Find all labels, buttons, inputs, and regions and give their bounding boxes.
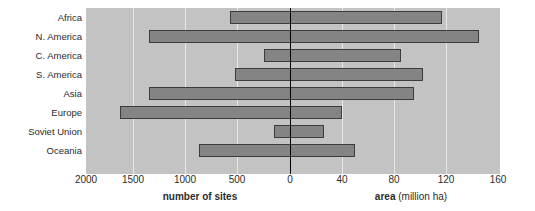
left-axis-title-text: number of sites [163, 191, 237, 202]
bar-row-europe [86, 103, 500, 122]
category-label-africa: Africa [0, 8, 82, 27]
right-axis-title-text: area [375, 191, 396, 202]
category-label-s-america: S. America [0, 65, 82, 84]
bar-row-asia [86, 84, 500, 103]
bar-s-america [235, 68, 423, 81]
category-label-asia: Asia [0, 84, 82, 103]
category-label-c-america: C. America [0, 46, 82, 65]
bar-row-s-america [86, 65, 500, 84]
bar-row-c-america [86, 46, 500, 65]
bar-row-oceania [86, 141, 500, 160]
left-axis-title: number of sites [163, 191, 237, 202]
category-label-oceania: Oceania [0, 141, 82, 160]
zero-divider-line [290, 8, 291, 174]
tick-label-160: 160 [490, 174, 507, 185]
tick-label-40: 40 [336, 174, 347, 185]
tick-label-1500: 1500 [122, 174, 144, 185]
chart-container: Africa N. America C. America S. America … [0, 0, 535, 211]
bar-europe [120, 106, 342, 119]
bar-oceania [199, 144, 355, 157]
tick-label-80: 80 [388, 174, 399, 185]
bar-n-america [149, 30, 479, 43]
bar-asia [149, 87, 414, 100]
bar-c-america [264, 49, 401, 62]
tick-label-0: 0 [287, 174, 293, 185]
category-label-n-america: N. America [0, 27, 82, 46]
tick-label-1000: 1000 [174, 174, 196, 185]
right-axis-title: area (million ha) [375, 191, 447, 202]
bar-row-africa [86, 8, 500, 27]
bar-africa [230, 11, 442, 24]
right-axis-unit-text: (million ha) [398, 191, 447, 202]
bar-soviet-union [274, 125, 324, 138]
category-label-soviet-union: Soviet Union [0, 122, 82, 141]
category-axis: Africa N. America C. America S. America … [0, 8, 82, 174]
category-label-europe: Europe [0, 103, 82, 122]
bar-row-n-america [86, 27, 500, 46]
value-axis: 2000 1500 1000 500 0 40 80 120 160 [86, 174, 500, 190]
plot-area [86, 8, 500, 174]
tick-label-120: 120 [438, 174, 455, 185]
tick-label-500: 500 [229, 174, 246, 185]
tick-label-2000: 2000 [75, 174, 97, 185]
bar-row-soviet-union [86, 122, 500, 141]
